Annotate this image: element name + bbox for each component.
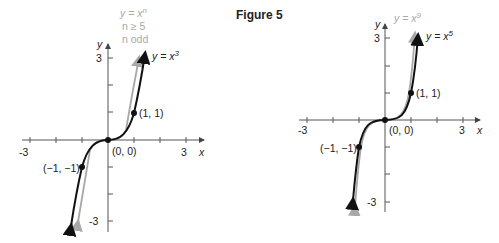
figure-canvas: -3 3 x 3 -3 y (1, 1) (0, 0) (−1, −1) y =… (0, 0, 499, 243)
point-label-0-0: (0, 0) (389, 124, 414, 136)
x-axis-label: x (476, 124, 483, 136)
right-graph: -3 3 x 3 -3 y (1, 1) (0, 0) (−1, −1) y =… (298, 11, 483, 212)
point-label-neg1-neg1: (−1, −1) (43, 162, 80, 174)
x-tick-label-neg3: -3 (19, 146, 28, 158)
x-axis-label: x (198, 146, 205, 158)
point-1-1 (408, 90, 414, 96)
gray-label-condition-1: n ≥ 5 (122, 20, 145, 32)
point-label-1-1: (1, 1) (416, 87, 441, 99)
black-label-equation: y = x3 (151, 49, 179, 62)
point-label-1-1: (1, 1) (139, 107, 164, 119)
gray-label-condition-2: n odd (122, 33, 148, 45)
y-tick-label-3: 3 (374, 32, 380, 44)
point-label-neg1-neg1: (−1, −1) (320, 142, 357, 154)
point-0-0 (382, 117, 388, 123)
point-neg1-neg1 (79, 164, 85, 170)
left-graph: -3 3 x 3 -3 y (1, 1) (0, 0) (−1, −1) y =… (19, 6, 205, 232)
gray-label-equation: y = x9 (393, 11, 421, 24)
x-tick-label-3: 3 (181, 146, 187, 158)
y-tick-label-neg3: -3 (367, 196, 376, 208)
y-axis-label: y (374, 18, 381, 30)
black-label-equation: y = x5 (425, 29, 453, 42)
y-axis-label: y (96, 38, 103, 50)
point-label-0-0: (0, 0) (112, 145, 137, 157)
x-tick-label-neg3: -3 (298, 124, 307, 136)
y-tick-label-3: 3 (96, 52, 102, 64)
point-1-1 (131, 110, 137, 116)
point-0-0 (105, 137, 111, 143)
gray-label-equation: y = xn (119, 6, 147, 19)
y-tick-label-neg3: -3 (89, 215, 98, 227)
point-neg1-neg1 (356, 144, 362, 150)
x-tick-label-3: 3 (459, 124, 465, 136)
